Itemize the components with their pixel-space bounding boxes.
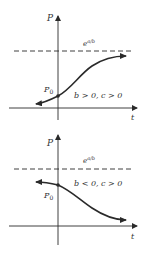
logistic-curve — [58, 185, 126, 220]
graph-bottom: P t ea/b P0 b < 0, c > 0 — [9, 135, 137, 245]
initial-point — [56, 183, 60, 187]
logistic-curve-left — [36, 182, 58, 185]
y-axis-label: P — [46, 13, 54, 23]
logistic-curve — [58, 56, 126, 96]
x-axis-label: t — [131, 113, 135, 122]
asymptote-label: ea/b — [83, 155, 95, 165]
diagram-canvas: P t ea/b P0 b > 0, c > 0 P t ea/b P0 b <… — [0, 0, 151, 253]
condition-label: b < 0, c > 0 — [74, 179, 122, 188]
graph-top: P t ea/b P0 b > 0, c > 0 — [9, 13, 137, 122]
initial-point-label: P0 — [43, 85, 53, 95]
asymptote-label: ea/b — [83, 38, 95, 48]
x-axis-label: t — [131, 232, 135, 241]
condition-label: b > 0, c > 0 — [74, 91, 122, 100]
logistic-curve-left — [36, 96, 58, 104]
y-axis-label: P — [46, 138, 54, 148]
initial-point-label: P0 — [43, 191, 53, 201]
initial-point — [56, 94, 60, 98]
